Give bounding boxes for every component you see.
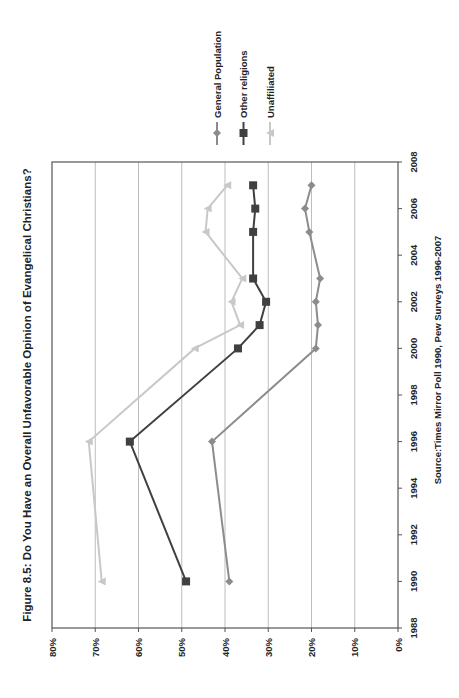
y-tick-label: 70%: [90, 637, 101, 657]
diamond-marker: [312, 298, 320, 306]
y-tick-label: 80%: [47, 637, 58, 657]
x-tick-label: 1994: [408, 477, 419, 499]
square-marker: [240, 129, 248, 137]
y-tick-label: 50%: [176, 637, 187, 657]
square-marker: [262, 298, 270, 306]
gridlines: [95, 162, 355, 628]
legend-item: General Population: [212, 31, 223, 145]
square-marker: [234, 344, 242, 352]
diamond-marker: [301, 205, 309, 213]
legend-label: Other religions: [238, 50, 249, 118]
legend-label: Unaffiliated: [265, 66, 276, 118]
y-tick-label: 40%: [220, 637, 231, 657]
legend-label: General Population: [212, 31, 223, 118]
x-tick-label: 1998: [408, 384, 419, 405]
diamond-marker: [213, 129, 221, 137]
square-marker: [251, 205, 259, 213]
y-axis-ticks: 0%10%20%30%40%50%60%70%80%: [47, 628, 404, 657]
square-marker: [249, 181, 257, 189]
square-marker: [249, 275, 257, 283]
x-tick-label: 1996: [408, 431, 419, 452]
diamond-marker: [225, 577, 233, 585]
x-tick-label: 2006: [408, 198, 419, 219]
legend: General PopulationOther religionsUnaffil…: [212, 31, 276, 145]
x-tick-label: 1988: [408, 617, 419, 638]
diamond-marker: [314, 321, 322, 329]
x-tick-label: 1990: [408, 571, 419, 592]
y-tick-label: 60%: [133, 637, 144, 657]
square-marker: [126, 438, 134, 446]
diamond-marker: [308, 181, 316, 189]
x-tick-label: 2004: [408, 244, 419, 266]
series-line: [130, 185, 266, 581]
x-tick-label: 1992: [408, 524, 419, 545]
series-line: [212, 185, 320, 581]
y-tick-label: 20%: [306, 637, 317, 657]
square-marker: [249, 228, 257, 236]
x-tick-label: 2008: [408, 151, 419, 172]
x-tick-label: 2000: [408, 338, 419, 359]
y-tick-label: 0%: [393, 637, 404, 651]
legend-item: Other religions: [238, 50, 249, 145]
series-line: [89, 185, 243, 581]
source-note: Source:Times Mirror Poll 1990, Pew Surve…: [432, 236, 443, 485]
square-marker: [256, 321, 264, 329]
line-chart: 0%10%20%30%40%50%60%70%80% 1988199019921…: [0, 0, 459, 698]
chart-title: Figure 8.5: Do You Have an Overall Unfav…: [21, 168, 33, 621]
series-other-religions: [126, 181, 270, 585]
diamond-marker: [316, 275, 324, 283]
legend-item: Unaffiliated: [265, 66, 276, 145]
y-tick-label: 10%: [349, 637, 360, 657]
y-tick-label: 30%: [263, 637, 274, 657]
x-axis-ticks: 1988199019921994199619982000200220042006…: [398, 151, 419, 638]
diamond-marker: [305, 228, 313, 236]
x-tick-label: 2002: [408, 291, 419, 312]
data-series: [85, 181, 324, 585]
square-marker: [182, 577, 190, 585]
